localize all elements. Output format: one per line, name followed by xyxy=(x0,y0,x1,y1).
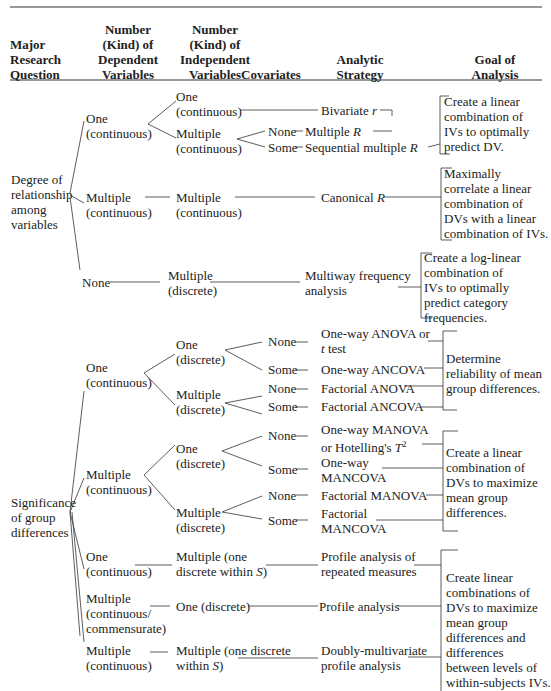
text-line: One xyxy=(176,441,225,456)
text-line: (continuous) xyxy=(86,375,152,390)
text-line: Doubly-multivariate xyxy=(321,643,427,658)
text-line: (continuous) xyxy=(86,564,152,579)
text-line: within-subjects IVs. xyxy=(446,675,551,690)
strategy-factorial-ancova: Factorial ANCOVA xyxy=(321,399,424,414)
iv-one-discrete-2: One (discrete) xyxy=(176,441,225,471)
text-line: frequencies. xyxy=(424,310,521,325)
text-line: Factorial xyxy=(321,506,387,521)
text-line: combination of xyxy=(424,265,521,280)
iv-multiple-discrete-2: Multiple (discrete) xyxy=(176,387,225,417)
header-line: Analytic xyxy=(320,52,400,67)
text-line: within S) xyxy=(176,658,291,673)
text-line: differences. xyxy=(446,505,538,520)
strategy-bivariate-r: Bivariate r xyxy=(321,103,377,118)
text-line: mean group xyxy=(446,490,538,505)
dv-one-continuous: One (continuous) xyxy=(86,111,152,141)
covariate-none: None xyxy=(268,334,296,349)
text-line: Multiple xyxy=(86,643,152,658)
text-line: Multiple xyxy=(168,268,217,283)
iv-multiple-one-discrete-within-s-2: Multiple (one discrete within S) xyxy=(176,643,291,673)
iv-one-continuous: One (continuous) xyxy=(176,89,242,119)
text-line: discrete within S) xyxy=(176,564,267,579)
text-line: combinations of xyxy=(446,585,551,600)
header-line: Analysis xyxy=(455,67,535,82)
strategy-one-way-ancova: One-way ANCOVA xyxy=(321,362,425,377)
goal-maximize-mean-differences: Create a linear combination of DVs to ma… xyxy=(446,445,538,520)
text-line: DVs to maximize xyxy=(446,475,538,490)
strategy-factorial-anova: Factorial ANOVA xyxy=(321,381,415,396)
iv-multiple-discrete: Multiple (discrete) xyxy=(168,268,217,298)
header-line: Strategy xyxy=(320,67,400,82)
text-line: profile analysis xyxy=(321,658,427,673)
covariate-some: Some xyxy=(268,513,298,528)
text-line: (continuous) xyxy=(176,141,242,156)
strategy-sequential-multiple-r: Sequential multiple R xyxy=(305,140,418,155)
text-line: predict DV. xyxy=(444,139,529,154)
header-line: Goal of xyxy=(455,52,535,67)
header-covariates: Covariates xyxy=(241,67,301,82)
text-line: One xyxy=(176,89,242,104)
text-line: Degree of xyxy=(11,172,72,187)
text-line: combination of IVs. xyxy=(444,226,548,241)
text-line: mean group xyxy=(446,615,551,630)
strategy-doubly-multivariate: Doubly-multivariate profile analysis xyxy=(321,643,427,673)
iv-one-discrete: One (discrete) xyxy=(176,337,225,367)
text-line: correlate a linear xyxy=(444,181,548,196)
text-line: MANCOVA xyxy=(321,521,387,536)
iv-multiple-one-discrete-within-s: Multiple (one discrete within S) xyxy=(176,549,267,579)
header-major-research-question: Major Research Question xyxy=(10,37,61,82)
text-line: differences xyxy=(11,525,76,540)
text-line: (continuous) xyxy=(86,126,152,141)
strategy-profile-analysis: Profile analysis xyxy=(319,599,400,614)
text-line: Multiple xyxy=(86,190,152,205)
text-line: differences xyxy=(446,645,551,660)
question-significance-of-group-differences: Significance of group differences xyxy=(11,495,76,540)
goal-log-linear: Create a log-linear combination of IVs t… xyxy=(424,250,521,325)
dv-multiple-commensurate: Multiple (continuous/ commensurate) xyxy=(86,591,166,636)
covariate-some: Some xyxy=(268,399,298,414)
text-line: (discrete) xyxy=(168,283,217,298)
text-line: MANCOVA xyxy=(321,470,387,485)
text-line: Profile analysis of xyxy=(321,549,417,564)
text-line: Create a linear xyxy=(446,445,538,460)
text-line: reliability of mean xyxy=(446,366,542,381)
text-line: Multiple xyxy=(176,387,225,402)
text-line: predict category xyxy=(424,295,521,310)
header-line: (Kind) of xyxy=(88,37,168,52)
goal-reliability-mean-differences: Determine reliability of mean group diff… xyxy=(446,351,542,396)
iv-multiple-continuous: Multiple (continuous) xyxy=(176,126,242,156)
text-line: DVs to maximize xyxy=(446,600,551,615)
strategy-multiway-frequency: Multiway frequency analysis xyxy=(305,268,411,298)
text-line: (continuous) xyxy=(86,205,152,220)
text-line: Multiple (one xyxy=(176,549,267,564)
text-line: among xyxy=(11,202,72,217)
text-line: IVs to optimally xyxy=(424,280,521,295)
question-degree-of-relationship: Degree of relationship among variables xyxy=(11,172,72,232)
text-line: Create a log-linear xyxy=(424,250,521,265)
text-line: (continuous/ xyxy=(86,606,166,621)
strategy-one-way-manova: One-way MANOVA or Hotelling's T2 xyxy=(321,422,429,455)
header-line: (Kind) of xyxy=(170,37,260,52)
dv-multiple-continuous-2: Multiple (continuous) xyxy=(86,467,152,497)
text-line: One-way MANOVA xyxy=(321,422,429,437)
header-line: Number xyxy=(170,22,260,37)
text-line: variables xyxy=(11,217,72,232)
iv-multiple-continuous-2: Multiple (continuous) xyxy=(176,190,242,220)
text-line: (discrete) xyxy=(176,456,225,471)
header-goal-of-analysis: Goal of Analysis xyxy=(455,52,535,82)
text-line: combination of xyxy=(446,460,538,475)
header-line: Research xyxy=(10,52,61,67)
iv-multiple-discrete-3: Multiple (discrete) xyxy=(176,505,225,535)
text-line: differences and xyxy=(446,630,551,645)
text-line: One xyxy=(86,360,152,375)
text-line: Multiple xyxy=(86,591,166,606)
text-line: (continuous) xyxy=(86,658,152,673)
header-dependent-variables: Number (Kind) of Dependent Variables xyxy=(88,22,168,82)
text-line: One xyxy=(176,337,225,352)
covariate-none: None xyxy=(268,124,296,139)
text-line: (continuous) xyxy=(176,205,242,220)
covariate-some: Some xyxy=(268,462,298,477)
dv-one-continuous-2: One (continuous) xyxy=(86,360,152,390)
text-line: combination of xyxy=(444,196,548,211)
covariate-none: None xyxy=(268,381,296,396)
